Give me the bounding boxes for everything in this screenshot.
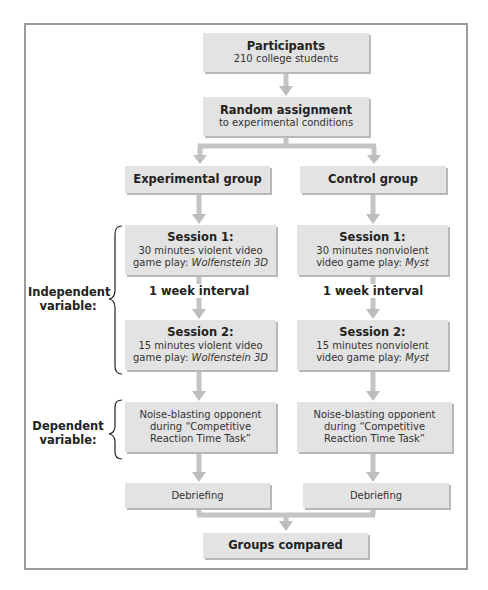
measure-line3: Reaction Time Task”: [324, 433, 425, 445]
experimental-session2-box: Session 2: 15 minutes violent video game…: [125, 320, 276, 370]
session1-line2-prefix: video game play:: [316, 257, 405, 268]
session1-line2: video game play: Myst: [316, 257, 429, 269]
session2-title: Session 2:: [339, 326, 405, 340]
random-assignment-subtitle: to experimental conditions: [219, 117, 353, 129]
control-session2-box: Session 2: 15 minutes nonviolent video g…: [297, 320, 448, 370]
session2-line2: game play: Wolfenstein 3D: [133, 352, 268, 364]
participants-subtitle: 210 college students: [234, 53, 339, 65]
game-name: Myst: [405, 257, 429, 268]
session2-line2: video game play: Myst: [316, 352, 429, 364]
random-assignment-title: Random assignment: [220, 104, 352, 118]
measure-line2: during “Competitive: [150, 421, 251, 433]
participants-title: Participants: [247, 40, 325, 54]
dependent-line2: variable:: [28, 433, 108, 447]
groups-compared-box: Groups compared: [203, 533, 368, 558]
game-name: Wolfenstein 3D: [192, 257, 268, 268]
measure-line1: Noise-blasting opponent: [139, 409, 261, 421]
brace-dependent: [109, 400, 122, 459]
experimental-session1-box: Session 1: 30 minutes violent video game…: [125, 225, 276, 275]
independent-variable-label: Independent variable:: [28, 285, 108, 314]
measure-line2: during “Competitive: [324, 421, 425, 433]
session1-title: Session 1:: [339, 231, 405, 245]
experimental-debriefing-box: Debriefing: [125, 483, 270, 508]
game-name: Myst: [405, 352, 429, 363]
groups-compared-title: Groups compared: [228, 539, 343, 553]
control-measure-box: Noise-blasting opponent during “Competit…: [297, 402, 452, 452]
dependent-variable-label: Dependent variable:: [28, 419, 108, 448]
session1-line1: 30 minutes nonviolent: [316, 245, 428, 257]
brace-independent: [109, 226, 122, 374]
session2-line1: 15 minutes nonviolent: [316, 340, 428, 352]
control-session1-box: Session 1: 30 minutes nonviolent video g…: [297, 225, 448, 275]
control-group-box: Control group: [300, 166, 446, 193]
participants-box: Participants 210 college students: [203, 33, 369, 72]
session2-line1: 15 minutes violent video: [138, 340, 262, 352]
measure-line1: Noise-blasting opponent: [313, 409, 435, 421]
session1-line2-prefix: game play:: [133, 257, 192, 268]
game-name: Wolfenstein 3D: [192, 352, 268, 363]
dependent-line1: Dependent: [28, 419, 108, 433]
debriefing-label: Debriefing: [171, 490, 223, 502]
experimental-interval: 1 week interval: [119, 284, 279, 298]
independent-line1: Independent: [28, 285, 108, 299]
control-debriefing-box: Debriefing: [303, 483, 449, 508]
random-assignment-box: Random assignment to experimental condit…: [203, 97, 369, 136]
control-interval: 1 week interval: [293, 284, 453, 298]
session2-line2-prefix: game play:: [133, 352, 192, 363]
independent-line2: variable:: [28, 299, 108, 313]
experimental-group-label: Experimental group: [133, 173, 261, 187]
session2-line2-prefix: video game play:: [316, 352, 405, 363]
debriefing-label: Debriefing: [350, 490, 402, 502]
session2-title: Session 2:: [167, 326, 233, 340]
experimental-measure-box: Noise-blasting opponent during “Competit…: [125, 402, 276, 452]
control-group-label: Control group: [328, 173, 418, 187]
session1-line2: game play: Wolfenstein 3D: [133, 257, 268, 269]
measure-line3: Reaction Time Task”: [150, 433, 251, 445]
session1-line1: 30 minutes violent video: [138, 245, 262, 257]
session1-title: Session 1:: [167, 231, 233, 245]
experimental-group-box: Experimental group: [125, 166, 270, 193]
